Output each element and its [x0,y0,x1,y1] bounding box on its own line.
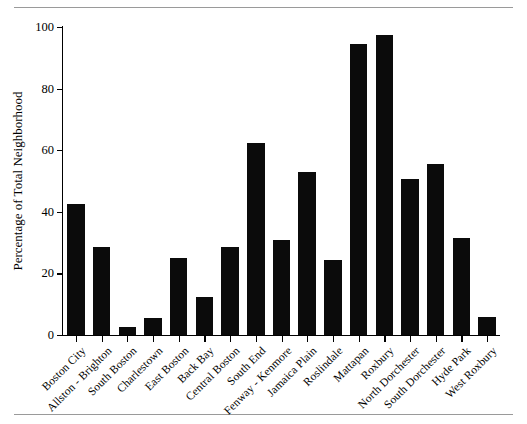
bar [67,204,84,335]
bar [170,258,187,335]
bar [427,164,444,335]
y-axis-tick-label: 20 [42,267,55,280]
x-axis-tick [153,336,154,342]
bar [247,143,264,336]
y-axis-tick: 100 [57,27,63,28]
x-axis-tick [127,336,128,342]
bar [196,297,213,336]
chart-figure: Percentage of Total Neighborhood 0204060… [0,0,527,424]
x-axis-tick [76,336,77,342]
top-divider-rule [14,7,513,8]
plot-area: 020406080100 [63,27,500,335]
bar [273,240,290,335]
bar [298,172,315,335]
y-axis-tick-label: 0 [48,329,54,342]
x-axis-tick [359,336,360,342]
x-axis-tick [204,336,205,342]
x-axis-tick [179,336,180,342]
y-axis-tick: 20 [57,273,63,274]
bar [401,179,418,335]
y-axis-title: Percentage of Total Neighborhood [11,92,24,271]
bar [324,260,341,335]
y-axis-tick-label: 80 [42,82,55,95]
x-axis-tick [333,336,334,342]
bottom-divider-rule [14,414,513,415]
y-axis-tick-label: 100 [35,21,54,34]
bar [93,247,110,335]
y-axis-tick-label: 60 [42,144,55,157]
bar [376,35,393,335]
y-axis-tick: 0 [57,335,63,336]
y-axis-tick: 80 [57,89,63,90]
bar [478,317,495,335]
y-axis-tick: 40 [57,212,63,213]
y-axis-tick: 60 [57,150,63,151]
x-axis-tick [436,336,437,342]
bar [221,247,238,335]
x-axis-tick [282,336,283,342]
x-axis-tick [307,336,308,342]
x-axis-tick [461,336,462,342]
x-axis-tick [230,336,231,342]
x-axis-tick [256,336,257,342]
bar [350,44,367,335]
x-axis-tick [487,336,488,342]
x-axis-tick [102,336,103,342]
y-axis-tick-label: 40 [42,206,55,219]
x-axis-tick [384,336,385,342]
bar [144,318,161,335]
bar [453,238,470,335]
bar [119,327,136,335]
x-axis-tick [410,336,411,342]
